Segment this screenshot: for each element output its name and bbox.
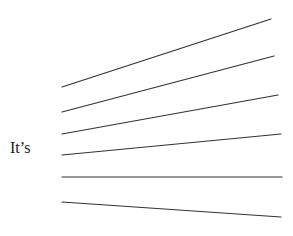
answer-line-3[interactable] [62, 95, 278, 134]
answer-line-4[interactable] [62, 134, 281, 155]
answer-lines-fan [0, 0, 293, 236]
answer-line-6[interactable] [62, 202, 281, 217]
answer-line-2[interactable] [62, 56, 274, 112]
answer-line-1[interactable] [62, 19, 271, 87]
